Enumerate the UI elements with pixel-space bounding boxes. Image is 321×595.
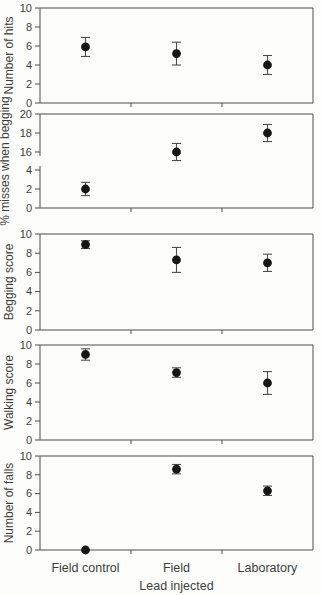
data-point bbox=[172, 465, 181, 474]
y-tick-label: 2 bbox=[26, 78, 32, 90]
y-tick-label: 2 bbox=[26, 415, 32, 427]
y-tick-label: 10 bbox=[20, 339, 32, 351]
x-axis-title: Lead injected bbox=[139, 579, 213, 593]
y-tick-label: 4 bbox=[26, 285, 32, 297]
x-category-label: Laboratory bbox=[238, 561, 299, 575]
x-category-label: Field bbox=[163, 561, 190, 575]
y-tick-label: 4 bbox=[26, 396, 32, 408]
y-tick-label: 16 bbox=[20, 146, 32, 158]
y-tick-label: 2 bbox=[26, 525, 32, 537]
y-axis-title: % misses when begging bbox=[0, 96, 12, 225]
y-tick-label: 10 bbox=[20, 2, 32, 14]
y-axis-title: Walking score bbox=[2, 355, 16, 430]
data-point bbox=[81, 350, 90, 359]
y-tick-label: 6 bbox=[26, 266, 32, 278]
y-axis-title: Number of falls bbox=[2, 463, 16, 544]
y-tick-label: 4 bbox=[26, 59, 32, 71]
data-point bbox=[263, 61, 272, 70]
scatter-panels-svg: 0246810Number of hits024161820% misses w… bbox=[0, 0, 321, 595]
y-tick-label: 2 bbox=[26, 305, 32, 317]
data-point bbox=[81, 185, 90, 194]
y-tick-label: 4 bbox=[26, 506, 32, 518]
y-tick-label: 0 bbox=[26, 434, 32, 446]
y-tick-label: 8 bbox=[26, 247, 32, 259]
figure-background bbox=[0, 0, 321, 595]
y-axis-title: Begging score bbox=[2, 243, 16, 320]
y-tick-label: 6 bbox=[26, 377, 32, 389]
data-point bbox=[263, 129, 272, 138]
data-point bbox=[172, 256, 181, 265]
y-tick-label: 0 bbox=[26, 544, 32, 556]
y-tick-label: 8 bbox=[26, 469, 32, 481]
data-point bbox=[172, 148, 181, 157]
data-point bbox=[263, 258, 272, 267]
y-tick-label: 4 bbox=[26, 164, 32, 176]
y-tick-label: 10 bbox=[20, 228, 32, 240]
data-point bbox=[263, 379, 272, 388]
x-category-label: Field control bbox=[51, 561, 119, 575]
figure-lead-injected-panels: 0246810Number of hits024161820% misses w… bbox=[0, 0, 321, 595]
data-point bbox=[172, 368, 181, 377]
y-tick-label: 8 bbox=[26, 21, 32, 33]
data-point bbox=[81, 240, 90, 249]
y-tick-label: 2 bbox=[26, 183, 32, 195]
data-point bbox=[172, 49, 181, 58]
data-point bbox=[81, 546, 90, 555]
y-tick-label: 0 bbox=[26, 202, 32, 214]
y-tick-label: 0 bbox=[26, 324, 32, 336]
y-tick-label: 20 bbox=[20, 108, 32, 120]
y-tick-label: 10 bbox=[20, 450, 32, 462]
y-tick-label: 6 bbox=[26, 40, 32, 52]
data-point bbox=[81, 43, 90, 52]
data-point bbox=[263, 486, 272, 495]
y-axis-title: Number of hits bbox=[2, 16, 16, 94]
y-tick-label: 6 bbox=[26, 487, 32, 499]
y-tick-label: 8 bbox=[26, 358, 32, 370]
y-tick-label: 18 bbox=[20, 127, 32, 139]
